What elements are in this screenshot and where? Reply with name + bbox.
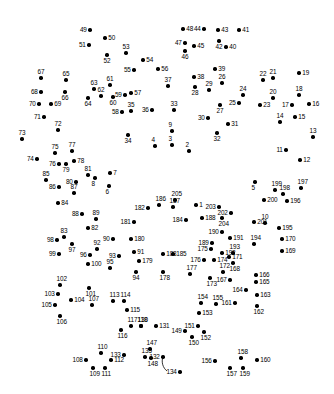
dot-number-label: 111 [102,371,111,377]
dot-number-label: 2 [186,142,189,148]
dot-marker [220,230,223,233]
dot-marker [86,262,89,265]
dot-marker [92,87,95,90]
dot-marker [132,220,135,223]
dot-marker [123,93,126,96]
dot-number-label: 33 [171,101,178,107]
dot-number-label: 181 [120,219,130,225]
dot-marker [39,76,42,79]
dot-marker [298,158,301,161]
dot-marker [84,358,87,361]
dot-number-label: 59 [115,92,122,98]
dot-marker [299,186,302,189]
dot-number-label: 153 [202,310,212,316]
dot-marker [80,212,83,215]
dot-marker [56,128,59,131]
dot-marker [183,41,186,44]
dot-marker [252,220,255,223]
dot-marker [58,283,61,286]
dot-number-label: 56 [161,66,168,72]
dot-marker [200,216,203,219]
dot-marker [284,148,287,151]
dot-marker [95,247,98,250]
dot-marker [137,259,140,262]
dot-number-label: 1 [199,202,202,208]
dot-marker [62,235,65,238]
dot-number-label: 42 [216,44,223,50]
dot-marker [187,149,190,152]
dot-number-label: 77 [69,142,76,148]
dot-number-label: 8 [92,181,95,187]
dot-marker [254,280,257,283]
dot-number-label: 29 [206,81,213,87]
dot-number-label: 13 [310,128,317,134]
dot-marker [139,324,142,327]
dot-marker [229,211,232,214]
dot-marker [297,93,300,96]
dot-marker [49,102,52,105]
dot-number-label: 184 [172,217,182,223]
dot-marker [214,302,217,305]
dot-marker [221,270,224,273]
dot-marker [99,351,102,354]
dot-number-label: 84 [61,200,68,206]
dot-number-label: 173 [207,281,217,287]
dot-number-label: 94 [133,275,140,281]
dot-number-label: 64 [85,101,92,107]
dot-number-label: 158 [238,349,248,355]
dot-marker [88,28,91,31]
dot-number-label: 109 [90,371,100,377]
dot-number-label: 46 [182,54,189,60]
dot-marker [217,205,220,208]
dot-marker [271,96,274,99]
dot-number-label: 178 [160,275,170,281]
dot-number-label: 102 [57,276,67,282]
dot-number-label: 191 [233,235,243,241]
dot-marker [56,292,59,295]
dot-marker [129,237,132,240]
dot-number-label: 40 [229,44,236,50]
dot-marker [129,324,132,327]
dot-number-label: 88 [72,211,79,217]
dot-marker [202,258,205,261]
dot-number-label: 57 [134,90,141,96]
dot-marker [148,347,151,350]
dot-marker [297,71,300,74]
dot-marker [122,299,125,302]
dot-number-label: 65 [63,71,70,77]
dot-number-label: 51 [79,42,86,48]
dot-number-label: 50 [108,35,115,41]
dot-number-label: 7 [113,170,116,176]
dot-marker [57,162,60,165]
dot-marker [166,84,169,87]
dot-marker [90,303,93,306]
dot-number-label: 71 [34,114,41,120]
dot-marker [216,28,219,31]
dot-marker [280,237,283,240]
dot-marker [55,238,58,241]
dot-number-label: 21 [270,69,277,75]
dot-number-label: 98 [47,237,54,243]
dot-marker [108,266,111,269]
dot-number-label: 86 [49,184,56,190]
dot-number-label: 202 [217,210,227,216]
dot-number-label: 55 [124,67,131,73]
dot-marker [88,253,91,256]
dot-number-label: 20 [270,89,277,95]
dot-number-label: 23 [263,102,270,108]
dot-number-label: 6 [106,189,109,195]
dot-marker [237,28,240,31]
dot-marker [231,251,234,254]
dot-marker [143,355,146,358]
dot-marker [94,217,97,220]
dot-number-label: 166 [259,272,269,278]
dot-number-label: 100 [91,261,101,267]
dot-number-label: 60 [110,100,117,106]
dot-number-label: 32 [214,136,221,142]
dot-number-label: 99 [49,251,56,257]
dot-number-label: 150 [189,340,199,346]
dot-number-label: 204 [219,221,229,227]
dot-number-label: 105 [41,302,51,308]
dot-number-label: 188 [205,215,215,221]
dot-number-label: 37 [165,77,172,83]
